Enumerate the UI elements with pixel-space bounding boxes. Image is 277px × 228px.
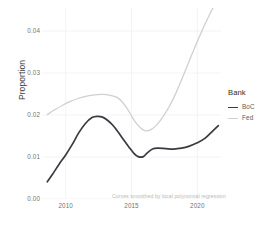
y-tick-label: 0.04 bbox=[16, 27, 40, 34]
x-tick-label: 2020 bbox=[181, 202, 213, 209]
x-axis-tick-labels: 201020152020 bbox=[0, 202, 277, 214]
y-tick-label: 0.02 bbox=[16, 111, 40, 118]
y-tick-label: 0.03 bbox=[16, 69, 40, 76]
series-line-fed bbox=[47, 8, 218, 131]
legend-line-swatch-icon bbox=[228, 102, 238, 111]
series-line-boc bbox=[47, 116, 218, 182]
plot-panel bbox=[42, 8, 221, 199]
plot-svg bbox=[42, 8, 221, 199]
plot-caption: Curves smoothed by local polynomial regr… bbox=[112, 193, 226, 199]
legend-line-swatch-icon bbox=[228, 113, 238, 122]
y-axis-tick-labels: 0.000.010.020.030.04 bbox=[14, 0, 40, 228]
legend-item-fed[interactable]: Fed bbox=[228, 113, 276, 122]
x-tick-label: 2015 bbox=[116, 202, 148, 209]
legend-item-label: BoC bbox=[242, 103, 255, 110]
legend-item-boc[interactable]: BoC bbox=[228, 102, 276, 111]
y-tick-label: 0.01 bbox=[16, 153, 40, 160]
x-tick-label: 2010 bbox=[50, 202, 82, 209]
chart-container: Proportion 0.000.010.020.030.04 20102015… bbox=[0, 0, 277, 228]
gridlines-major bbox=[42, 8, 221, 199]
legend-entries: BoCFed bbox=[228, 102, 276, 122]
legend-item-label: Fed bbox=[242, 114, 253, 121]
y-tick-label: 0.00 bbox=[16, 195, 40, 202]
legend: Bank BoCFed bbox=[228, 88, 276, 124]
series-lines bbox=[47, 8, 218, 182]
legend-title: Bank bbox=[228, 88, 276, 97]
